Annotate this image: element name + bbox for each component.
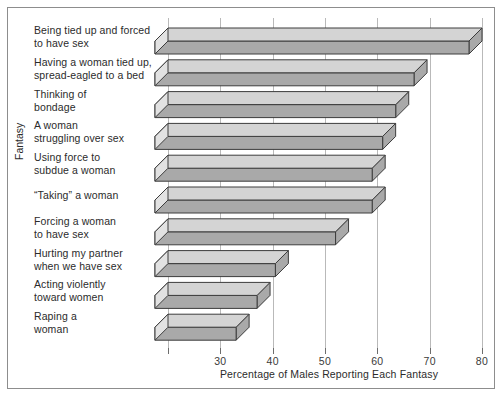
bar-series bbox=[168, 18, 490, 358]
bar bbox=[155, 219, 349, 245]
x-tick-mark bbox=[273, 348, 274, 354]
bar-top-face bbox=[155, 155, 385, 168]
bar-front-face bbox=[155, 327, 236, 340]
bar-front-face bbox=[155, 105, 396, 118]
y-axis-title: Fantasy bbox=[13, 123, 25, 160]
category-label-line: subdue a woman bbox=[34, 164, 164, 177]
x-tick-mark bbox=[325, 348, 326, 354]
category-label-line: Being tied up and forced bbox=[34, 24, 164, 37]
x-tick-mark bbox=[430, 348, 431, 354]
bar bbox=[155, 251, 288, 277]
category-label-line: Using force to bbox=[34, 151, 164, 164]
x-tick-label: 50 bbox=[305, 355, 345, 367]
category-label-line: “Taking” a woman bbox=[34, 189, 164, 202]
category-label: Acting violentlytoward women bbox=[34, 278, 164, 304]
category-label-line: bondage bbox=[34, 101, 164, 114]
category-label-line: spread-eagled to a bed bbox=[34, 69, 164, 82]
category-label-line: Thinking of bbox=[34, 88, 164, 101]
bar-top-face bbox=[155, 187, 385, 200]
bar bbox=[155, 282, 270, 308]
bar bbox=[155, 123, 396, 149]
chart-figure: Fantasy Being tied up and forcedto have … bbox=[0, 0, 503, 397]
bar bbox=[155, 155, 385, 181]
bar-front-face bbox=[155, 232, 336, 245]
category-label: Forcing a womanto have sex bbox=[34, 215, 164, 241]
category-label-line: woman bbox=[34, 323, 164, 336]
bar bbox=[155, 187, 385, 213]
category-label-line: Having a woman tied up, bbox=[34, 56, 164, 69]
category-label-line: when we have sex bbox=[34, 260, 164, 273]
bar-front-face bbox=[155, 73, 414, 86]
bar-top-face bbox=[155, 314, 249, 327]
bar-front-face bbox=[155, 200, 372, 213]
category-label-line: to have sex bbox=[34, 37, 164, 50]
plot-area bbox=[168, 18, 490, 348]
bar bbox=[155, 60, 427, 86]
bar-top-face bbox=[155, 282, 270, 295]
bar bbox=[155, 92, 409, 118]
category-label: Raping awoman bbox=[34, 310, 164, 336]
x-tick-label: 70 bbox=[410, 355, 450, 367]
bar-top-face bbox=[155, 28, 482, 41]
category-label-line: A woman bbox=[34, 119, 164, 132]
category-label-line: struggling over sex bbox=[34, 132, 164, 145]
category-label: Thinking ofbondage bbox=[34, 88, 164, 114]
bar-top-face bbox=[155, 60, 427, 73]
bar bbox=[155, 28, 482, 54]
category-label-line: to have sex bbox=[34, 228, 164, 241]
bar-top-face bbox=[155, 123, 396, 136]
bar-top-face bbox=[155, 219, 349, 232]
bar-front-face bbox=[155, 264, 275, 277]
x-tick-mark bbox=[482, 348, 483, 354]
category-label-line: Raping a bbox=[34, 310, 164, 323]
category-label-line: Acting violently bbox=[34, 278, 164, 291]
x-tick-label: 30 bbox=[200, 355, 240, 367]
category-label-line: toward women bbox=[34, 291, 164, 304]
x-tick-mark bbox=[377, 348, 378, 354]
category-label-line: Forcing a woman bbox=[34, 215, 164, 228]
category-label: Having a woman tied up,spread-eagled to … bbox=[34, 56, 164, 82]
x-tick-label: 40 bbox=[253, 355, 293, 367]
x-tick-label: 60 bbox=[357, 355, 397, 367]
category-label: A womanstruggling over sex bbox=[34, 119, 164, 145]
x-tick-mark bbox=[220, 348, 221, 354]
bar-front-face bbox=[155, 295, 257, 308]
bar-front-face bbox=[155, 168, 372, 181]
category-label: “Taking” a woman bbox=[34, 189, 164, 202]
bar bbox=[155, 314, 249, 340]
bar-front-face bbox=[155, 136, 383, 149]
category-label: Being tied up and forcedto have sex bbox=[34, 24, 164, 50]
x-axis-title: Percentage of Males Reporting Each Fanta… bbox=[168, 368, 490, 380]
category-label-line: Hurting my partner bbox=[34, 247, 164, 260]
category-label: Hurting my partnerwhen we have sex bbox=[34, 247, 164, 273]
bar-front-face bbox=[155, 41, 469, 54]
category-label: Using force tosubdue a woman bbox=[34, 151, 164, 177]
x-tick-mark bbox=[168, 348, 169, 354]
bar-top-face bbox=[155, 92, 409, 105]
x-tick-label: 80 bbox=[462, 355, 502, 367]
bar-top-face bbox=[155, 251, 288, 264]
